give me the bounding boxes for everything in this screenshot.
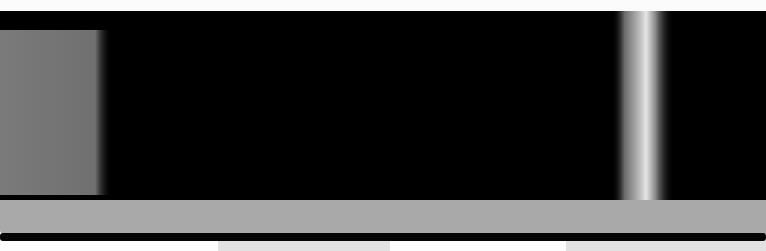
ruler-ticks	[0, 200, 766, 212]
bottom-gray-block	[566, 241, 766, 251]
wave-panel	[0, 11, 766, 201]
gamma-haze	[0, 30, 112, 195]
bottom-gray-block	[218, 241, 390, 251]
top-margin	[0, 0, 766, 11]
ruler-shadow-bar	[0, 233, 766, 241]
spectrum-ruler	[0, 200, 766, 234]
electromagnetic-wave-graphic	[0, 11, 766, 201]
visible-light-band	[612, 11, 674, 201]
